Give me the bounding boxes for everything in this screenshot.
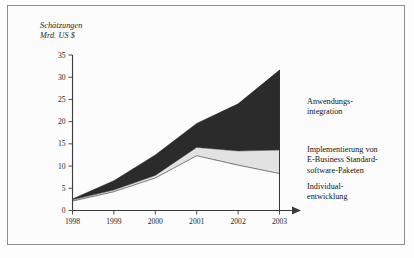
x-axis-tick-label: 1998: [65, 217, 80, 226]
legend-item-anwendungsintegration: Anwendungs- integration: [307, 97, 353, 118]
legend-individual-line1: Individual-: [307, 182, 347, 192]
x-axis-tick-label: 2000: [148, 217, 163, 226]
x-axis-ticks: 199819992000200120022003: [65, 211, 287, 226]
legend-anwendung-line1: Anwendungs-: [307, 97, 353, 107]
plot-area: 05101520253035 199819992000200120022003: [0, 0, 414, 258]
y-axis-tick-label: 10: [58, 162, 66, 171]
y-axis-ticks: 05101520253035: [58, 51, 73, 216]
legend-individual-line2: entwicklung: [307, 192, 347, 202]
x-axis-tick-label: 2001: [189, 217, 204, 226]
legend-implementierung-line3: software-Paketen: [307, 166, 378, 176]
y-axis-tick-label: 25: [58, 95, 66, 104]
legend-item-individualentwicklung: Individual- entwicklung: [307, 182, 347, 203]
legend-implementierung-line2: E-Business Standard-: [307, 155, 378, 165]
series-areas: [73, 70, 280, 210]
x-axis-tick-label: 2002: [231, 217, 246, 226]
legend-implementierung-line1: Implementierung von: [307, 145, 378, 155]
y-axis-tick-label: 5: [62, 184, 66, 193]
y-axis-tick-label: 30: [58, 73, 66, 82]
x-axis-tick-label: 2003: [272, 217, 287, 226]
y-axis-tick-label: 0: [62, 206, 66, 215]
x-axis-tick-label: 1999: [106, 217, 121, 226]
chart-figure: Schätzungen Mrd. US $ 05101520253035 199…: [0, 0, 414, 258]
legend-anwendung-line2: integration: [307, 107, 353, 117]
y-axis-tick-label: 35: [58, 51, 66, 60]
legend-item-implementierung: Implementierung von E-Business Standard-…: [307, 145, 378, 176]
x-axis-arrow: [292, 207, 301, 215]
y-axis-tick-label: 15: [58, 139, 66, 148]
y-axis-tick-label: 20: [58, 117, 66, 126]
